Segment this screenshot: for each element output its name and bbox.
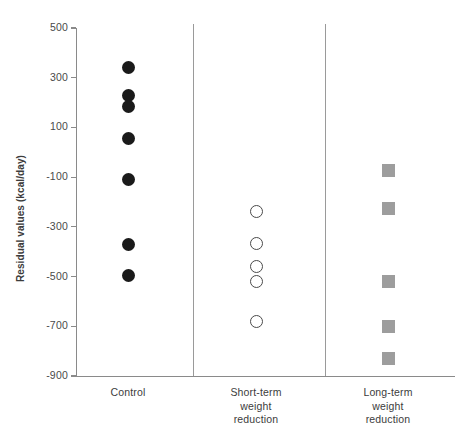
y-tick-label: 300 <box>22 71 68 83</box>
x-category-label-line: reduction <box>186 413 326 427</box>
data-point <box>382 320 395 333</box>
x-category-label: Control <box>58 386 198 400</box>
data-point <box>250 205 263 218</box>
y-tick-mark <box>71 326 76 327</box>
x-category-label-line: Short-term <box>186 386 326 400</box>
y-tick-mark <box>71 27 76 28</box>
y-tick-label: -700 <box>22 319 68 331</box>
x-category-label: Short-termweightreduction <box>186 386 326 427</box>
data-point <box>122 269 135 282</box>
data-point <box>122 238 135 251</box>
y-tick-mark <box>71 77 76 78</box>
data-point <box>250 237 263 250</box>
x-category-label-line: Long-term <box>318 386 458 400</box>
y-tick-label: -100 <box>22 170 68 182</box>
data-point <box>250 315 263 328</box>
x-category-label: Long-termweightreduction <box>318 386 458 427</box>
y-tick-label: -500 <box>22 270 68 282</box>
y-axis-line <box>76 28 77 376</box>
x-category-label-line: weight <box>186 400 326 414</box>
group-separator-1 <box>193 24 194 376</box>
data-point <box>122 61 135 74</box>
x-category-label-line: weight <box>318 400 458 414</box>
y-tick-label: 100 <box>22 120 68 132</box>
data-point <box>382 202 395 215</box>
y-tick-label: 500 <box>22 21 68 33</box>
data-point <box>382 352 395 365</box>
data-point <box>250 275 263 288</box>
data-point <box>382 275 395 288</box>
x-category-label-line: reduction <box>318 413 458 427</box>
data-point <box>382 164 395 177</box>
x-category-label-line: Control <box>58 386 198 400</box>
y-tick-mark <box>71 375 76 376</box>
data-point <box>122 132 135 145</box>
data-point <box>250 260 263 273</box>
data-point <box>122 100 135 113</box>
y-tick-label: -300 <box>22 220 68 232</box>
scatter-chart: Residual values (kcal/day) 500300100-100… <box>0 0 470 437</box>
data-point <box>122 173 135 186</box>
y-tick-mark <box>71 276 76 277</box>
y-tick-mark <box>71 226 76 227</box>
y-tick-mark <box>71 177 76 178</box>
x-axis-line <box>76 376 455 377</box>
y-tick-mark <box>71 127 76 128</box>
y-tick-label: -900 <box>22 369 68 381</box>
group-separator-2 <box>325 24 326 376</box>
